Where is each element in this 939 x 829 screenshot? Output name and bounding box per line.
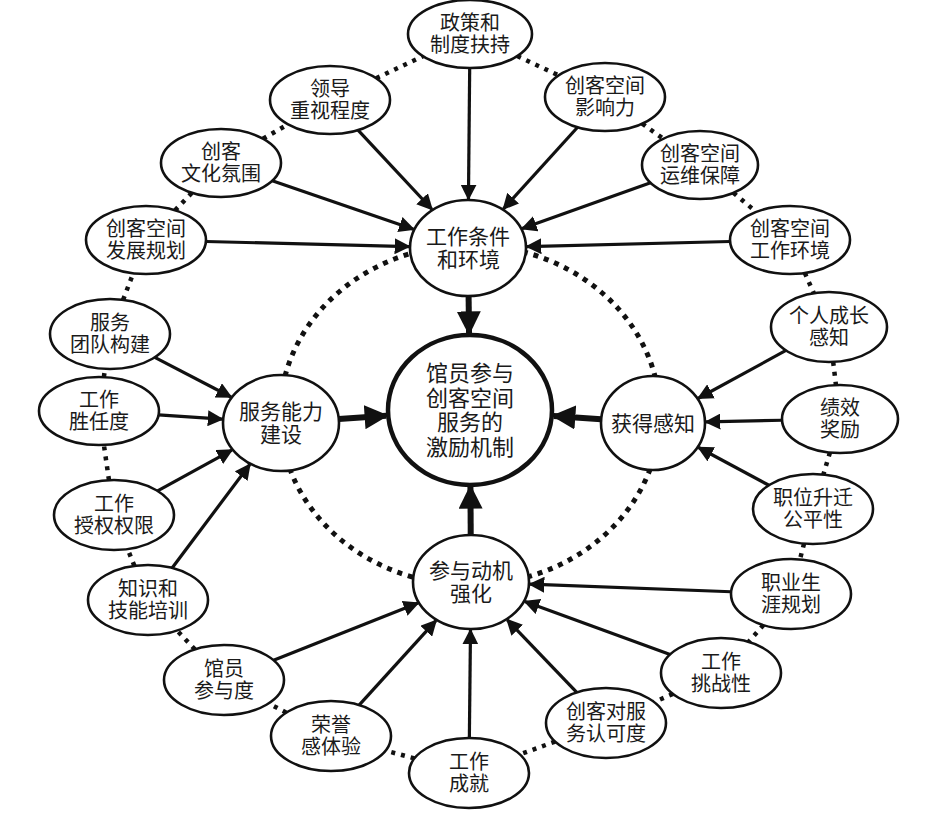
outer-dotted-link (123, 273, 133, 300)
outer-dotted-link (128, 549, 135, 566)
outer-dotted-link (654, 694, 673, 702)
hub-node-hub-ability: 服务能力建设 (223, 375, 339, 471)
node-label-line: 职业生 (761, 571, 821, 595)
node-label-line: 文化氛围 (181, 162, 261, 186)
node-label-line: 发展规划 (106, 239, 186, 263)
arrow-f-promotion-to-hub-perception (699, 447, 769, 485)
node-label-line: 成就 (449, 772, 489, 796)
node-label-line: 创客对服 (566, 700, 646, 724)
node-label-line: 工作 (94, 492, 134, 516)
arrow-hub-ability-to-core (339, 416, 386, 419)
factor-node-f-training: 知识和技能培训 (88, 565, 208, 635)
concept-map: 政策和制度扶持领导重视程度创客空间影响力创客文化氛围创客空间运维保障创客空间发展… (0, 0, 939, 829)
outer-dotted-link (263, 124, 288, 138)
factor-node-f-growth: 个人成长感知 (771, 292, 887, 362)
node-label-line: 馆员参与 (426, 361, 514, 386)
outer-dotted-link (520, 742, 555, 755)
arrow-f-devplan-to-hub-env (206, 241, 409, 246)
arrow-f-ops-to-hub-env (522, 183, 650, 229)
node-label-line: 工作条件 (426, 225, 510, 249)
outer-dotted-link (749, 625, 764, 642)
node-label-line: 务认可度 (566, 722, 646, 746)
arrow-f-workenv-to-hub-env (527, 241, 730, 246)
node-label-line: 工作 (79, 388, 119, 412)
node-label-line: 服务 (90, 311, 130, 335)
node-label-line: 影响力 (575, 96, 635, 120)
factor-node-f-participation: 馆员参与度 (164, 645, 284, 715)
arrow-f-reward-to-hub-perception (706, 420, 782, 422)
outer-dotted-link (800, 544, 804, 560)
factor-node-f-influence: 创客空间影响力 (545, 63, 665, 131)
node-label-line: 服务能力 (239, 400, 323, 424)
arrow-f-competence-to-hub-ability (159, 415, 223, 419)
factor-node-f-honor: 荣誉感体验 (271, 701, 391, 771)
node-label-line: 和环境 (437, 248, 500, 272)
node-label-line: 创客空间 (426, 386, 514, 411)
arrow-f-career-to-hub-motivation (530, 584, 731, 592)
node-label-line: 馆员 (204, 657, 244, 681)
factor-node-f-culture: 创客文化氛围 (161, 129, 281, 197)
node-label-line: 涯规划 (761, 593, 821, 617)
node-label-line: 获得感知 (611, 412, 695, 436)
factor-node-f-policy: 政策和制度扶持 (408, 0, 532, 68)
arrow-f-leader-to-hub-env (358, 130, 432, 209)
factor-node-f-promotion: 职位升迁公平性 (753, 474, 873, 544)
node-label-line: 工作 (701, 650, 741, 674)
outer-dotted-link (733, 193, 756, 212)
node-label-line: 激励机制 (426, 435, 514, 460)
node-label-line: 职位升迁 (773, 486, 853, 510)
outer-dotted-link (269, 703, 287, 712)
arrow-f-policy-to-hub-env (468, 68, 469, 199)
node-label-line: 绩效 (820, 396, 860, 420)
node-label-line: 团队构建 (70, 333, 150, 357)
factor-node-f-reward: 绩效奖励 (782, 385, 898, 453)
arrow-f-authority-to-hub-ability (158, 450, 232, 491)
outer-dotted-link (642, 124, 663, 139)
node-label-line: 运维保障 (660, 164, 740, 188)
node-label-line: 创客空间 (106, 217, 186, 241)
hub-node-hub-motivation: 参与动机强化 (413, 535, 529, 629)
node-label-line: 知识和 (118, 577, 178, 601)
factor-node-f-workenv: 创客空间工作环境 (730, 206, 850, 274)
node-label-line: 胜任度 (69, 410, 129, 434)
node-label-line: 技能培训 (108, 599, 188, 623)
arrow-f-honor-to-hub-motivation (359, 621, 436, 705)
node-label-line: 制度扶持 (430, 33, 510, 57)
node-label-line: 建设 (260, 423, 302, 447)
outer-dotted-link (175, 193, 192, 210)
factor-node-f-recognition: 创客对服务认可度 (546, 688, 666, 758)
factor-node-f-devplan: 创客空间发展规划 (86, 206, 206, 274)
hub-node-hub-perception: 获得感知 (601, 376, 705, 470)
node-label-line: 个人成长 (789, 304, 869, 328)
node-label-line: 授权权限 (74, 514, 154, 538)
node-label-line: 政策和 (440, 11, 500, 35)
node-label-line: 领导 (310, 77, 350, 101)
outer-dotted-link (517, 56, 558, 75)
arrow-f-challenge-to-hub-motivation (525, 602, 670, 655)
arrow-hub-perception-to-core (554, 416, 601, 419)
outer-dotted-link (104, 445, 109, 480)
arrow-f-growth-to-hub-perception (698, 350, 786, 398)
factor-node-f-challenge: 工作挑战性 (661, 638, 781, 708)
factor-node-f-authority: 工作授权权限 (54, 480, 174, 550)
outer-dotted-link (833, 362, 836, 385)
node-label-line: 创客空间 (660, 142, 740, 166)
outer-dotted-link (823, 452, 830, 474)
node-label-line: 荣誉 (311, 713, 351, 737)
node-label-line: 重视程度 (290, 99, 370, 123)
hub-node-hub-env: 工作条件和环境 (410, 200, 526, 296)
arrow-f-recognition-to-hub-motivation (507, 620, 576, 693)
outer-dotted-link (386, 751, 415, 759)
node-label-line: 工作环境 (750, 239, 830, 263)
arrow-f-achievement-to-hub-motivation (469, 630, 470, 738)
node-label-line: 创客空间 (750, 217, 830, 241)
arrow-f-influence-to-hub-env (503, 127, 577, 209)
node-label-line: 挑战性 (691, 672, 751, 696)
node-label-line: 创客 (201, 140, 241, 164)
outer-dotted-link (177, 631, 195, 650)
factor-node-f-career: 职业生涯规划 (731, 559, 851, 629)
node-label-line: 强化 (450, 582, 492, 606)
arrow-f-participation-to-hub-motivation (274, 603, 418, 660)
node-label-line: 服务的 (437, 410, 503, 435)
diagram-canvas: 政策和制度扶持领导重视程度创客空间影响力创客文化氛围创客空间运维保障创客空间发展… (0, 0, 939, 829)
